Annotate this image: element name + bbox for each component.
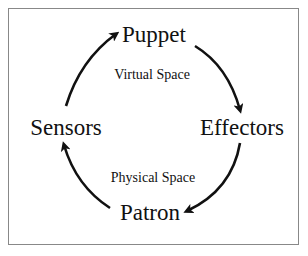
arrow-patron-to-sensors — [64, 145, 110, 208]
node-patron: Patron — [120, 200, 181, 225]
label-physical-space: Physical Space — [111, 170, 195, 185]
arrow-puppet-to-effectors — [195, 46, 240, 110]
node-puppet: Puppet — [122, 22, 187, 47]
cycle-diagram: Puppet Virtual Space Sensors Effectors P… — [0, 0, 308, 256]
label-virtual-space: Virtual Space — [114, 67, 190, 82]
node-effectors: Effectors — [200, 115, 284, 140]
node-sensors: Sensors — [30, 115, 102, 140]
arrow-sensors-to-puppet — [66, 34, 116, 106]
